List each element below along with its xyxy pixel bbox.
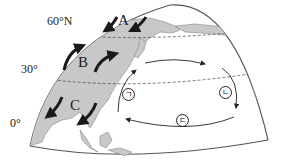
- wind-label-c: C: [70, 98, 80, 113]
- latitude-60n-label: 60°N: [47, 15, 72, 27]
- latitude-30-label: 30°: [21, 63, 38, 75]
- wind-label-b: B: [78, 55, 88, 70]
- globe-diagram: [0, 0, 281, 161]
- southeast-asia-islands: [80, 130, 132, 156]
- equator-edge: [30, 140, 268, 154]
- current-label-giyeok: ㄱ: [122, 88, 135, 101]
- north-america-coast: [230, 20, 268, 120]
- wind-label-a: A: [118, 13, 129, 28]
- current-north-arrow: [145, 60, 205, 64]
- current-label-nieun: ㄴ: [219, 86, 232, 99]
- northeast-landmass: [175, 24, 240, 36]
- current-label-digeut: ㄷ: [176, 114, 189, 127]
- latitude-0-label: 0°: [10, 117, 21, 129]
